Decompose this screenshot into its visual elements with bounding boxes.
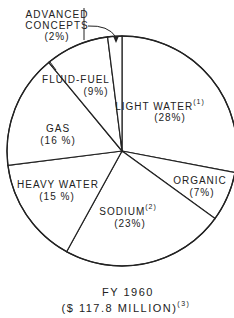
slice-pct-heavy-water: (15 %) (39, 191, 74, 202)
slice-pct-gas: (16 %) (40, 135, 75, 146)
slice-label-gas: GAS (46, 123, 70, 134)
slice-label-organic: ORGANIC (173, 175, 227, 186)
slice-pct-fluid-fuel: (9%) (83, 86, 108, 97)
callout-label-advanced: ADVANCED (26, 9, 89, 20)
slice-pct-light-water: (28%) (154, 112, 186, 123)
slice-label-fluid-fuel: FLUID-FUEL (42, 74, 110, 85)
slice-label-heavy-water: HEAVY WATER (17, 179, 99, 190)
chart-title: FY 1960 (102, 286, 154, 298)
slice-label-light-water: LIGHT WATER(1) (115, 98, 205, 112)
slice-pct-organic: (7%) (189, 187, 214, 198)
chart-subtitle: ($ 117.8 MILLION)(3) (62, 300, 191, 314)
callout-pct-advanced: (2%) (44, 31, 69, 42)
pie-chart: LIGHT WATER(1) (28%) ORGANIC (7%) SODIUM… (0, 0, 234, 318)
callout-arrow-line (88, 26, 116, 37)
slice-pct-sodium: (23%) (114, 218, 146, 229)
callout-label-concepts: CONCEPTS (25, 20, 89, 31)
